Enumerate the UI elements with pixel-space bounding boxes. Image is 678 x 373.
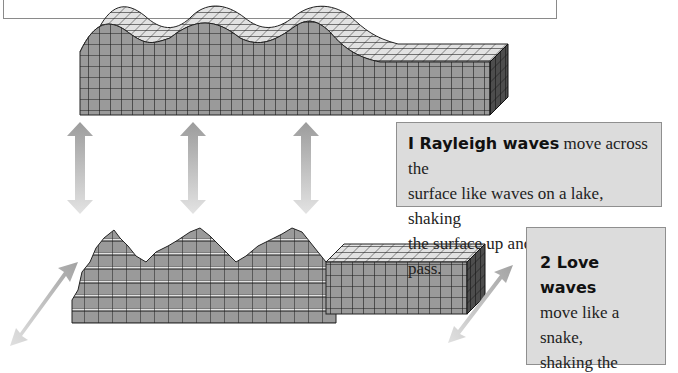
rayleigh-wave-block [80, 6, 508, 115]
love-line-1: move like a snake, [540, 303, 619, 347]
vertical-arrows [67, 122, 319, 214]
double-vertical-arrow-icon [67, 122, 93, 214]
double-vertical-arrow-icon [293, 122, 319, 214]
double-vertical-arrow-icon [180, 122, 206, 214]
rayleigh-title: I Rayleigh waves [408, 134, 559, 153]
love-line-2: shaking the surface [540, 353, 618, 373]
double-diagonal-arrow-icon [10, 262, 78, 346]
love-title: 2 Love waves [540, 253, 599, 297]
rayleigh-caption: I Rayleigh waves move across the surface… [396, 122, 662, 207]
love-caption: 2 Love waves move like a snake, shaking … [526, 227, 666, 365]
